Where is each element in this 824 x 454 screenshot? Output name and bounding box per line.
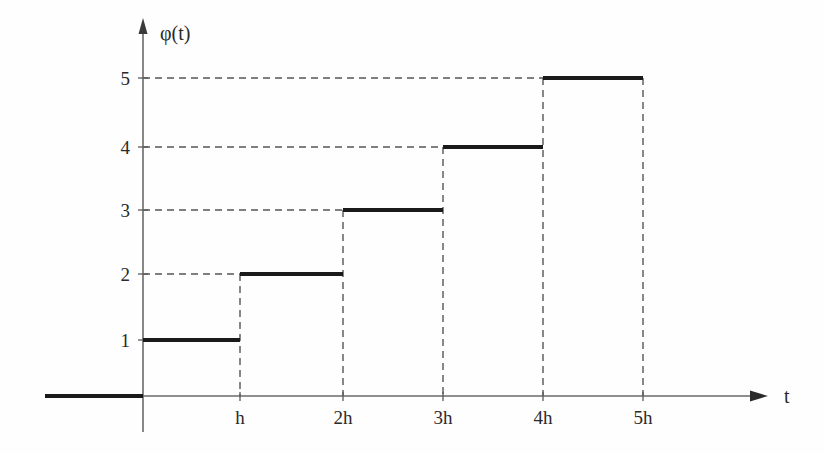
- horizontal-gridlines: [143, 78, 543, 274]
- y-tick-label-4: 4: [121, 138, 131, 157]
- y-tick-label-1: 1: [121, 331, 131, 350]
- vertical-gridlines: [240, 78, 643, 396]
- x-tick-label-4h: 4h: [534, 408, 553, 427]
- y-tick-label-3: 3: [121, 201, 131, 220]
- y-tick-label-5: 5: [121, 69, 131, 88]
- y-axis-title: φ(t): [160, 23, 190, 43]
- y-axis-arrowhead: [139, 18, 148, 34]
- x-tick-label-5h: 5h: [634, 408, 653, 427]
- y-tick-label-2: 2: [121, 265, 131, 284]
- axes-group: [139, 18, 769, 432]
- x-tick-label-2h: 2h: [334, 408, 353, 427]
- x-tick-label-h: h: [235, 408, 245, 427]
- x-tick-label-3h: 3h: [434, 408, 453, 427]
- step-function-curve: [45, 78, 643, 396]
- step-function-chart: 5 4 3 2 1 h 2h 3h 4h 5h φ(t) t: [0, 0, 824, 454]
- x-axis-arrowhead: [750, 391, 768, 402]
- x-axis-title: t: [784, 386, 790, 406]
